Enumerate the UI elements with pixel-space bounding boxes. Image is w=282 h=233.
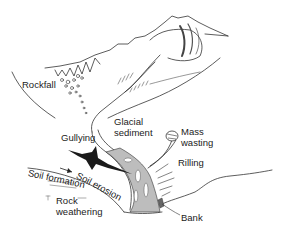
label-mass-wasting-line2: wasting: [181, 138, 213, 148]
label-bank: Bank: [181, 213, 203, 223]
label-rilling: Rilling: [178, 158, 204, 168]
label-rock-weathering-line2: weathering: [56, 207, 102, 217]
label-mass-wasting-line1: Mass: [181, 127, 204, 137]
label-rock-weathering-line1: Rock: [56, 196, 78, 206]
label-glacial-sediment-line1: Glacial: [114, 117, 143, 127]
label-rockfall: Rockfall: [22, 80, 56, 90]
label-glacial-sediment-line2: sediment: [114, 128, 153, 138]
sediment-sources-diagram: Rockfall Glacial sediment Gullying Mass …: [0, 0, 282, 233]
label-gullying: Gullying: [61, 133, 95, 143]
